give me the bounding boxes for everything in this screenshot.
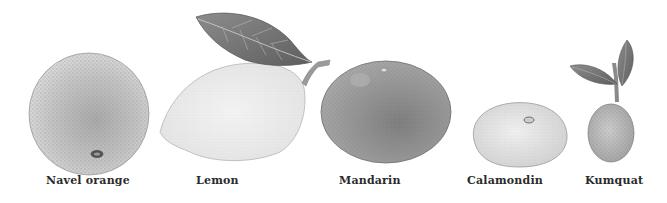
- citrus-illustration: Navel orange Lemon Mandarin Calamondin K…: [0, 0, 667, 203]
- label-lemon: Lemon: [196, 174, 239, 187]
- label-calamondin: Calamondin: [467, 174, 543, 187]
- label-navel-orange: Navel orange: [46, 174, 130, 187]
- lemon-drawing: [160, 13, 330, 161]
- label-kumquat: Kumquat: [585, 174, 643, 187]
- navel-orange-drawing: [29, 53, 149, 175]
- fruit-drawings: [0, 0, 667, 203]
- kumquat-drawing: [570, 40, 634, 162]
- label-mandarin: Mandarin: [339, 174, 401, 187]
- mandarin-drawing: [321, 61, 451, 163]
- calamondin-drawing: [473, 103, 567, 167]
